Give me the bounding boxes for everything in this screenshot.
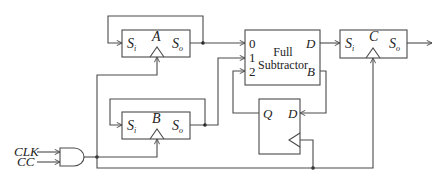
serial-subtractor-diagram: Si A So Si B So 0 1 2 Full Subtractor D … xyxy=(0,0,443,175)
register-b-name: B xyxy=(152,111,161,126)
register-c: Si C So xyxy=(340,29,407,58)
wire-clock-to-b xyxy=(97,139,157,157)
fs-output-d-label: D xyxy=(305,36,316,51)
dff-d-label: D xyxy=(287,106,298,121)
fs-input-1-label: 1 xyxy=(249,50,256,65)
wire-b-to-fs-1 xyxy=(205,58,245,125)
cc-input-label: CC xyxy=(17,154,35,169)
full-subtractor: 0 1 2 Full Subtractor D B xyxy=(245,30,320,85)
register-a: Si A So xyxy=(122,29,190,57)
register-a-name: A xyxy=(151,29,161,44)
fs-input-2-label: 2 xyxy=(249,64,256,79)
fs-title-line1: Full xyxy=(273,45,293,59)
wire-clock-to-dff xyxy=(300,140,313,168)
dff-q-label: Q xyxy=(263,106,273,121)
fs-title-line2: Subtractor xyxy=(258,58,308,72)
register-c-name: C xyxy=(369,29,379,44)
wire-clock-to-a xyxy=(97,57,157,157)
and-gate-icon xyxy=(60,148,84,166)
fs-input-0-label: 0 xyxy=(249,36,256,51)
d-flipflop: Q D xyxy=(259,99,300,154)
register-b: Si B So xyxy=(122,111,190,139)
fs-output-b-label: B xyxy=(307,64,315,79)
